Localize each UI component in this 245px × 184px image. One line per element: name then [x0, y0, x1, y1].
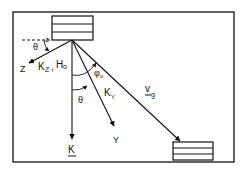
svg-text:K: K: [38, 61, 45, 72]
svg-text:Y: Y: [111, 94, 115, 100]
y-axis-arrow: [72, 40, 114, 126]
theta-mid-label: θ: [78, 95, 83, 105]
source-block: [52, 16, 93, 40]
k-vector-label: K: [68, 144, 76, 156]
svg-text:o: o: [63, 63, 67, 70]
svg-text:K: K: [104, 87, 111, 98]
wave-vector-diagram: θ z Z K Z , H o φ o θ K Y Y K v g: [0, 0, 245, 184]
theta-top-label: θ: [33, 42, 38, 52]
svg-text:g: g: [151, 91, 155, 99]
vg-label: v g: [145, 83, 155, 99]
receiver-block: [173, 142, 213, 160]
y-axis-label: Y: [113, 135, 119, 145]
group-velocity-arrow: [72, 40, 180, 141]
theta-mid-arc: [72, 86, 87, 90]
z-small-label: z: [45, 35, 49, 44]
svg-text:K: K: [68, 144, 75, 155]
svg-text:,: ,: [51, 61, 54, 72]
svg-text:v: v: [145, 83, 150, 94]
ky-label: K Y: [104, 87, 115, 100]
phi0-label: φ o: [94, 68, 104, 79]
svg-text:Z: Z: [45, 66, 50, 73]
z-axis-label: Z: [20, 64, 26, 74]
kz-h0-label: K Z , H o: [38, 59, 67, 73]
svg-text:o: o: [100, 73, 104, 79]
